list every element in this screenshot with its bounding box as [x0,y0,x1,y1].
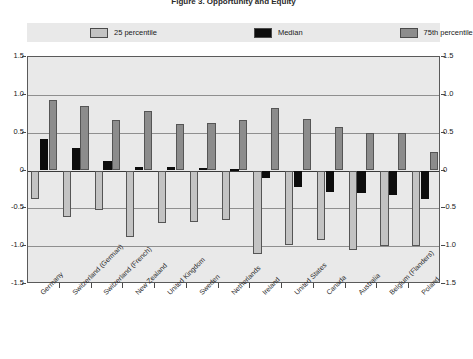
y-tick-label-left--1.5: -1.5 [0,278,24,288]
y-tick-mark [441,170,445,171]
bar-median [389,171,397,195]
bar-p25 [253,171,261,254]
y-tick-label-left--1.0: -1.0 [0,240,24,250]
y-tick-mark [22,207,26,208]
bar-p25 [63,171,71,218]
bar-median [357,171,365,194]
bar-p25 [31,171,39,200]
y-tick-mark [22,245,26,246]
x-tick-mark [281,283,282,288]
y-tick-label-left-1.5: 1.5 [0,51,24,61]
legend-label-median: Median [278,28,303,37]
bar-p25 [222,171,230,221]
bar-p75 [80,106,88,170]
bar-p25 [190,171,198,222]
x-tick-mark [313,283,314,288]
x-axis-labels: GermanySwitzerland (German)Switzerland (… [0,289,467,359]
y-tick-mark [22,56,26,57]
bar-p75 [303,119,311,170]
y-tick-label-left--0.5: -0.5 [0,202,24,212]
bar-p75 [112,120,120,171]
bar-p75 [430,152,438,170]
y-tick-label-right-1.5: 1.5 [443,51,467,61]
chart-legend: 25 percentile Median 75th percentile [27,23,440,42]
legend-swatch-p25 [90,28,108,38]
bar-median [199,168,207,170]
legend-entry-p25: 25 percentile [90,28,157,38]
bar-p75 [335,127,343,171]
y-tick-mark [22,283,26,284]
bar-median [421,171,429,200]
y-axis-right: 1.51.00.50-0.5-1.0-1.5 [443,56,467,283]
bar-median [294,171,302,188]
bar-median [40,139,48,171]
y-tick-mark [441,132,445,133]
bar-p75 [271,108,279,170]
bar-p25 [95,171,103,210]
x-tick-mark [376,283,377,288]
y-tick-label-right--0.5: -0.5 [443,202,467,212]
bar-p75 [144,111,152,170]
bar-median [326,171,334,192]
bar-p75 [207,123,215,171]
y-tick-mark [441,207,445,208]
bar-p25 [349,171,357,250]
y-tick-label-right--1.0: -1.0 [443,240,467,250]
y-tick-label-left-0: 0 [0,165,24,175]
x-tick-mark [186,283,187,288]
x-tick-mark [91,283,92,288]
plot-area [27,56,440,283]
y-tick-mark [22,132,26,133]
y-tick-label-right-1.0: 1.0 [443,89,467,99]
y-axis-left: 1.51.00.50-0.5-1.0-1.5 [0,56,24,283]
x-tick-mark [154,283,155,288]
bar-p75 [176,124,184,171]
bar-p25 [412,171,420,247]
y-tick-label-left-1.0: 1.0 [0,89,24,99]
bar-groups [28,57,439,282]
y-tick-mark [441,245,445,246]
x-tick-mark [122,283,123,288]
y-tick-mark [441,283,445,284]
bar-p75 [239,120,247,171]
bar-median [72,148,80,171]
legend-entry-median: Median [254,28,303,38]
y-tick-label-right--1.5: -1.5 [443,278,467,288]
y-tick-mark [22,170,26,171]
x-tick-mark [249,283,250,288]
y-tick-mark [441,94,445,95]
bar-p75 [398,133,406,171]
legend-swatch-median [254,28,272,38]
y-tick-label-right-0.5: 0.5 [443,127,467,137]
x-tick-mark [345,283,346,288]
bar-median [103,161,111,171]
bar-median [135,167,143,170]
legend-entry-p75: 75th percentile [400,28,473,38]
bar-p25 [126,171,134,238]
y-tick-label-right-0: 0 [443,165,467,175]
y-tick-mark [441,56,445,57]
bar-p75 [366,133,374,171]
bar-p25 [158,171,166,224]
bar-p25 [317,171,325,241]
bar-median [262,171,270,179]
chart-title: Figure 3. Opportunity and Equity [0,0,467,7]
y-tick-label-left-0.5: 0.5 [0,127,24,137]
y-tick-mark [22,94,26,95]
x-tick-mark [408,283,409,288]
bar-median [230,169,238,171]
legend-label-p75: 75th percentile [424,28,473,37]
x-tick-mark [59,283,60,288]
bar-p75 [49,100,57,170]
x-tick-mark [218,283,219,288]
bar-median [167,167,175,170]
legend-label-p25: 25 percentile [114,28,157,37]
bar-p25 [285,171,293,245]
legend-swatch-p75 [400,28,418,38]
bar-p25 [380,171,388,247]
